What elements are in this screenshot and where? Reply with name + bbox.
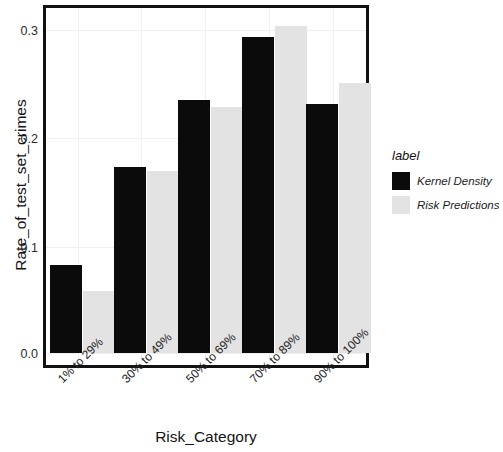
- bar-kernel-density-1: [50, 265, 82, 353]
- bar-risk-predictions-3: [211, 107, 243, 353]
- plot-inner: [46, 8, 366, 365]
- y-tick-0.3: 0.3: [0, 25, 38, 37]
- chart-root: 0.3 0.2 0.1 0.0 Rate_of_test_set_crimes: [0, 0, 503, 452]
- legend: label Kernel Density Risk Predictions: [392, 148, 500, 220]
- bar-kernel-density-5: [306, 104, 338, 353]
- bar-kernel-density-4: [242, 37, 274, 353]
- legend-title: label: [392, 148, 500, 163]
- legend-swatch-kernel-density: [392, 172, 410, 190]
- legend-label-risk-predictions: Risk Predictions: [417, 199, 499, 211]
- legend-swatch-risk-predictions: [392, 196, 410, 214]
- legend-item-kernel-density[interactable]: Kernel Density: [392, 172, 500, 190]
- y-tick-0.0: 0.0: [0, 348, 38, 360]
- legend-item-risk-predictions[interactable]: Risk Predictions: [392, 196, 500, 214]
- x-axis-title: Risk_Category: [43, 428, 369, 446]
- gridline-0.3: [46, 30, 366, 31]
- bar-risk-predictions-2: [147, 171, 179, 353]
- legend-label-kernel-density: Kernel Density: [417, 175, 492, 187]
- bar-kernel-density-3: [178, 100, 210, 354]
- y-axis-title: Rate_of_test_set_crimes: [12, 70, 30, 300]
- plot-area: [43, 5, 369, 368]
- bar-risk-predictions-5: [339, 83, 371, 353]
- bar-kernel-density-2: [114, 167, 146, 353]
- bar-risk-predictions-4: [275, 26, 307, 353]
